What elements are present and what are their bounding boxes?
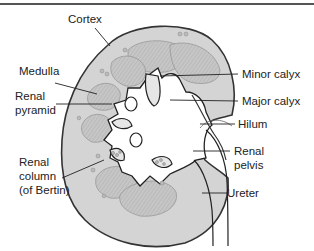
label-hilum: Hilum <box>238 117 267 131</box>
label-renal-pelvis-line2: pelvis <box>234 158 264 172</box>
label-renal-pyramid-line2: pyramid <box>15 103 56 117</box>
label-minor-calyx: Minor calyx <box>242 67 300 81</box>
label-renal-column-line3: (of Bertin) <box>19 183 70 197</box>
label-renal-pyramid: Renal pyramid <box>15 89 56 117</box>
label-renal-column-line1: Renal <box>19 155 70 169</box>
label-renal-column-line2: column <box>19 169 70 183</box>
label-cortex: Cortex <box>68 12 102 26</box>
label-renal-pyramid-line1: Renal <box>15 89 56 103</box>
label-renal-pelvis-line1: Renal <box>234 144 264 158</box>
label-major-calyx: Major calyx <box>242 94 300 108</box>
label-ureter: Ureter <box>227 186 259 200</box>
label-medulla: Medulla <box>19 64 59 78</box>
leader-cortex <box>95 28 110 46</box>
calyx-4 <box>130 133 142 147</box>
calyx-2 <box>125 97 137 111</box>
label-renal-pelvis: Renal pelvis <box>234 144 264 172</box>
label-renal-column: Renal column (of Bertin) <box>19 155 70 197</box>
